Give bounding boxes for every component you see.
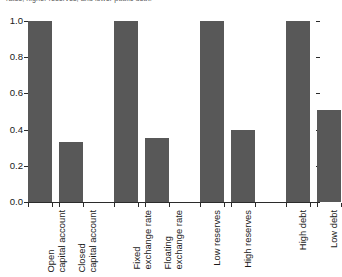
x-axis-category-label-line: Open xyxy=(46,210,57,273)
x-axis-category-label-line: High reserves xyxy=(243,210,254,268)
x-axis-tick xyxy=(169,203,170,207)
bar-high-debt[interactable] xyxy=(286,21,310,202)
x-axis-tick xyxy=(317,203,318,207)
x-axis-tick xyxy=(224,203,225,207)
y-axis-label: 0.8 xyxy=(10,52,23,62)
x-axis-category-label: Opencapital account xyxy=(46,210,67,273)
bar-floating-exchange-rate[interactable] xyxy=(145,138,169,202)
x-axis-tick xyxy=(286,203,287,207)
bar-open-capital-account[interactable] xyxy=(28,21,52,202)
x-axis-category-label: High reserves xyxy=(243,210,254,268)
x-axis-category-label-line: Closed xyxy=(77,210,88,273)
y-axis-tick-right xyxy=(316,21,320,22)
y-axis-label: 0.2 xyxy=(10,161,23,171)
x-axis-tick xyxy=(255,203,256,207)
bar-high-reserves[interactable] xyxy=(231,130,255,202)
bar-low-debt[interactable] xyxy=(317,110,341,202)
x-axis-category-label: Closedcapital account xyxy=(77,210,98,273)
y-axis-tick-right xyxy=(316,93,320,94)
x-axis-category-label: Fixedexchange rate xyxy=(132,210,153,269)
y-axis-label: 0.4 xyxy=(10,125,23,135)
x-axis-tick xyxy=(52,203,53,207)
x-axis-category-label: Low debt xyxy=(329,210,340,248)
x-axis-category-label: High debt xyxy=(298,210,309,250)
x-axis-category-label-line: Floating xyxy=(163,210,174,269)
y-axis-tick-right xyxy=(316,57,320,58)
x-axis-category-label-line: Low reserves xyxy=(212,210,223,266)
plot-area: 1.00.80.60.40.20.0 xyxy=(28,21,316,202)
x-axis-tick xyxy=(200,203,201,207)
x-axis-tick xyxy=(138,203,139,207)
x-axis-tick xyxy=(83,203,84,207)
x-axis-category-label-line: exchange rate xyxy=(142,210,153,269)
x-axis-category-label-line: capital account xyxy=(87,210,98,273)
y-axis-label: 1.0 xyxy=(10,16,23,26)
x-axis-category-label: Floatingexchange rate xyxy=(163,210,184,269)
x-axis-tick xyxy=(59,203,60,207)
x-axis-tick xyxy=(310,203,311,207)
x-axis-tick xyxy=(145,203,146,207)
x-axis-tick xyxy=(28,203,29,207)
x-axis-category-label-line: Low debt xyxy=(329,210,340,248)
x-axis-category-label-line: exchange rate xyxy=(173,210,184,269)
y-axis-label: 0.6 xyxy=(10,88,23,98)
x-axis-tick xyxy=(114,203,115,207)
bar-fixed-exchange-rate[interactable] xyxy=(114,21,138,202)
x-axis-category-label-line: High debt xyxy=(298,210,309,250)
x-axis-category-label-line: Fixed xyxy=(132,210,143,269)
x-axis-category-label: Low reserves xyxy=(212,210,223,266)
x-axis-spine xyxy=(28,202,316,203)
bar-closed-capital-account[interactable] xyxy=(59,142,83,202)
x-axis-category-label-line: capital account xyxy=(56,210,67,273)
bar-low-reserves[interactable] xyxy=(200,21,224,202)
y-axis-label: 0.0 xyxy=(10,197,23,207)
x-axis-tick xyxy=(231,203,232,207)
